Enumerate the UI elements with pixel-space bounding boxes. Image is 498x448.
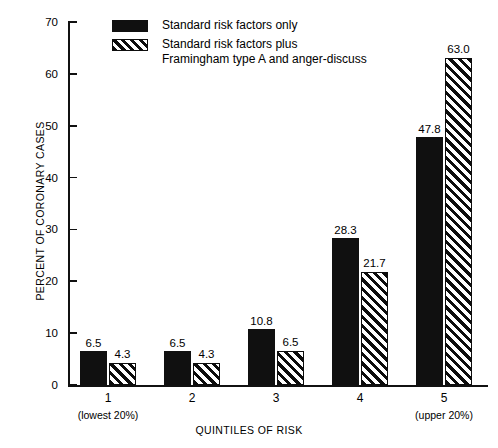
- bar-value-label: 47.8: [418, 123, 440, 135]
- y-tick-label: 60: [0, 68, 58, 80]
- y-tick-label: 10: [0, 327, 58, 339]
- legend: Standard risk factors only Standard risk…: [112, 18, 442, 71]
- bar-standard-plus: 21.7: [361, 272, 388, 385]
- x-tick-label: 5: [441, 391, 448, 405]
- bar-standard-only: 28.3: [332, 238, 359, 385]
- bar-standard-only: 6.5: [80, 351, 107, 385]
- x-tick-label: 3: [273, 391, 280, 405]
- bar-standard-only: 47.8: [416, 137, 443, 385]
- bar-value-label: 28.3: [334, 224, 356, 236]
- legend-label-line1: Standard risk factors only: [162, 18, 297, 32]
- x-tick-label: 1: [105, 391, 112, 405]
- legend-swatch-solid-icon: [112, 20, 148, 32]
- bar-standard-plus: 63.0: [445, 58, 472, 385]
- x-tick-label: 4: [357, 391, 364, 405]
- bar-value-label: 4.3: [115, 348, 131, 360]
- legend-item-standard-risk-only: Standard risk factors only: [112, 18, 442, 33]
- y-tick-label: 50: [0, 120, 58, 132]
- legend-label-plus-line2: Framingham type A and anger-discuss: [162, 52, 367, 67]
- y-tick-label: 20: [0, 275, 58, 287]
- bar-group: 47.863.0: [404, 22, 488, 385]
- bar-value-label: 6.5: [86, 337, 102, 349]
- y-tick-label: 40: [0, 172, 58, 184]
- legend-label-plus-line1: Standard risk factors plus: [162, 37, 297, 51]
- legend-label-standard-risk-plus: Standard risk factors plus Framingham ty…: [162, 37, 367, 67]
- plot-area: 6.54.36.54.310.86.528.321.747.863.0: [68, 22, 488, 385]
- x-axis-title: QUINTILES OF RISK: [0, 424, 498, 436]
- y-tick-label: 0: [0, 379, 58, 391]
- bar-group: 10.86.5: [236, 22, 320, 385]
- legend-item-standard-risk-plus: Standard risk factors plus Framingham ty…: [112, 37, 442, 67]
- bar-group: 6.54.3: [68, 22, 152, 385]
- x-axis-line: [68, 385, 488, 387]
- bar-standard-plus: 4.3: [193, 363, 220, 385]
- bar-value-label: 10.8: [250, 315, 272, 327]
- bar-standard-plus: 6.5: [277, 351, 304, 385]
- bar-value-label: 6.5: [283, 336, 299, 348]
- figure-bar-chart: PERCENT OF CORONARY CASES 01020304050607…: [0, 0, 498, 448]
- legend-label-standard-risk-only: Standard risk factors only: [162, 18, 297, 33]
- bar-standard-only: 6.5: [164, 351, 191, 385]
- bar-group: 28.321.7: [320, 22, 404, 385]
- x-tick-label: 2: [189, 391, 196, 405]
- bar-value-label: 21.7: [363, 257, 385, 269]
- bar-standard-only: 10.8: [248, 329, 275, 385]
- legend-swatch-hatch-icon: [112, 39, 148, 51]
- bar-standard-plus: 4.3: [109, 363, 136, 385]
- y-tick-label: 70: [0, 16, 58, 28]
- y-tick-label: 30: [0, 223, 58, 235]
- x-axis-note-lowest: (lowest 20%): [78, 409, 139, 421]
- bar-value-label: 63.0: [447, 43, 469, 55]
- bar-value-label: 6.5: [170, 337, 186, 349]
- x-axis-note-upper: (upper 20%): [415, 409, 473, 421]
- bar-group: 6.54.3: [152, 22, 236, 385]
- bar-value-label: 4.3: [199, 348, 215, 360]
